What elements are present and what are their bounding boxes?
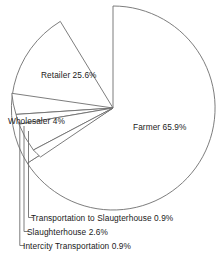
slice-label-wholesaler: Wholesaler 4%: [8, 117, 65, 125]
callout-label-intercity-transportation: Intercity Transportation 0.9%: [23, 242, 131, 250]
callout-label-slaughterhouse: Slaughterhouse 2.6%: [27, 228, 108, 236]
slice-label-farmer: Farmer 65.9%: [133, 123, 187, 131]
slice-label-retailer: Retailer 25.6%: [41, 71, 97, 79]
pie-chart: Farmer 65.9% Retailer 25.6% Wholesaler 4…: [0, 0, 218, 257]
callout-label-transportation-to-slaughterhouse: Transportation to Slaugterhouse 0.9%: [31, 214, 173, 222]
